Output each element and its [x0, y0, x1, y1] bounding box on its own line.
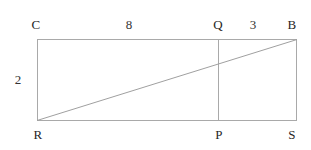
label-vertex-c: C [32, 18, 41, 31]
label-vertex-p: P [215, 128, 222, 141]
geometry-figure: C 8 Q 3 B 2 R P S [0, 0, 311, 150]
figure-canvas [0, 0, 311, 150]
label-length-qb: 3 [250, 18, 257, 31]
label-vertex-q: Q [213, 18, 223, 31]
label-vertex-r: R [34, 128, 43, 141]
label-vertex-b: B [288, 18, 297, 31]
label-vertex-s: S [288, 128, 295, 141]
diagonal-RB [37, 40, 297, 121]
label-length-rc: 2 [15, 73, 22, 86]
label-length-cq: 8 [126, 18, 133, 31]
